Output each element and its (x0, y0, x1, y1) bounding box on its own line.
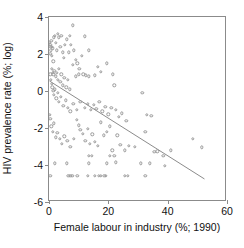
plot-frame: 420-2-4-60204060 (48, 16, 226, 201)
y-axis-tick (45, 91, 49, 92)
y-axis-tick (45, 54, 49, 55)
y-axis-tick-label: -2 (34, 123, 43, 134)
x-axis-tick (227, 200, 228, 204)
x-axis-tick (49, 200, 50, 204)
y-axis-tick (45, 128, 49, 129)
y-axis-tick-label: -6 (34, 197, 43, 208)
y-axis-tick (45, 165, 49, 166)
x-axis-tick-label: 60 (221, 206, 233, 217)
y-axis-tick-label: 4 (37, 12, 43, 23)
y-axis-tick (45, 17, 49, 18)
x-axis-tick-label: 40 (162, 206, 174, 217)
x-axis-title: Female labour in industry (%; 1990) (48, 222, 226, 233)
y-axis-title-text: HIV prevalence rate (%; log) (2, 43, 13, 175)
x-axis-tick-label: 0 (46, 206, 52, 217)
y-axis-tick-label: 2 (37, 49, 43, 60)
y-axis-title: HIV prevalence rate (%; log) (0, 16, 14, 201)
x-axis-tick (168, 200, 169, 204)
y-axis-tick-label: -4 (34, 160, 43, 171)
y-axis-tick-label: 0 (37, 86, 43, 97)
x-axis-tick-label: 20 (102, 206, 114, 217)
plot-area (49, 17, 225, 200)
scatter-chart-figure: HIV prevalence rate (%; log) 420-2-4-602… (0, 0, 244, 248)
x-axis-tick (108, 200, 109, 204)
